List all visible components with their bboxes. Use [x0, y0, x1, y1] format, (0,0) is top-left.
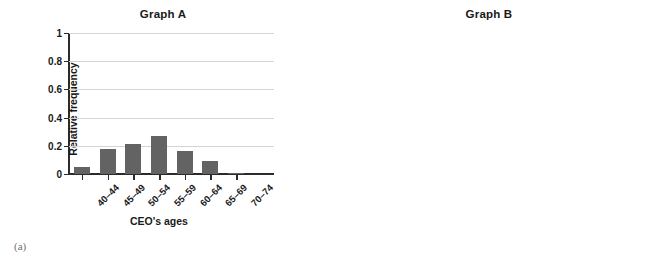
- x-axis-tick-label: 55–59: [172, 182, 198, 208]
- x-axis-tick-label: 60–64: [197, 182, 223, 208]
- gridline: [69, 61, 274, 62]
- x-axis-tick-label: 70–74: [249, 182, 275, 208]
- gridline: [69, 89, 274, 90]
- x-axis-tick: [185, 174, 187, 180]
- chart-title-a: Graph A: [0, 8, 326, 20]
- x-axis-tick-label: 45–49: [120, 182, 146, 208]
- gridline: [69, 118, 274, 119]
- x-axis-tick: [82, 174, 84, 180]
- x-axis-tick: [159, 174, 161, 180]
- y-axis-tick-label: 0.8: [48, 56, 62, 67]
- gridline: [69, 33, 274, 34]
- y-axis-tick: [64, 118, 69, 119]
- gridline: [69, 146, 274, 147]
- x-axis-tick: [108, 174, 110, 180]
- x-axis-tick-label: 65–69: [223, 182, 249, 208]
- panel-label-a: (a): [14, 240, 26, 252]
- figure-graph-a: Graph A Relative frequency CEO's ages 00…: [0, 0, 326, 264]
- x-axis-tick-label: 40–44: [95, 182, 121, 208]
- plot-area-a: Relative frequency CEO's ages 00.20.40.6…: [69, 33, 249, 174]
- y-axis-tick-label: 1: [56, 28, 62, 39]
- bar: [125, 144, 141, 174]
- x-axis-label-a: CEO's ages: [69, 215, 249, 227]
- y-axis-tick-label: 0.2: [48, 140, 62, 151]
- bar: [74, 167, 90, 174]
- figure-graph-b: Graph B Relative Frequency Age 00.20.40.…: [326, 0, 652, 264]
- y-axis-tick: [64, 146, 69, 147]
- y-axis-tick-label: 0: [56, 169, 62, 180]
- y-axis-tick: [64, 33, 69, 34]
- x-axis-tick: [210, 174, 212, 180]
- y-axis-tick-label: 0.6: [48, 84, 62, 95]
- chart-title-b: Graph B: [326, 8, 652, 20]
- bar: [151, 136, 167, 174]
- x-axis-tick-label: 50–54: [146, 182, 172, 208]
- bar: [100, 149, 116, 174]
- y-axis-tick-label: 0.4: [48, 112, 62, 123]
- y-axis-tick: [64, 61, 69, 62]
- y-axis-tick: [64, 89, 69, 90]
- y-axis-label-a: Relative frequency: [67, 62, 79, 155]
- bar: [177, 151, 193, 174]
- y-axis-tick: [64, 174, 69, 175]
- x-axis-tick: [236, 174, 238, 180]
- x-axis-tick: [133, 174, 135, 180]
- bar: [202, 161, 218, 174]
